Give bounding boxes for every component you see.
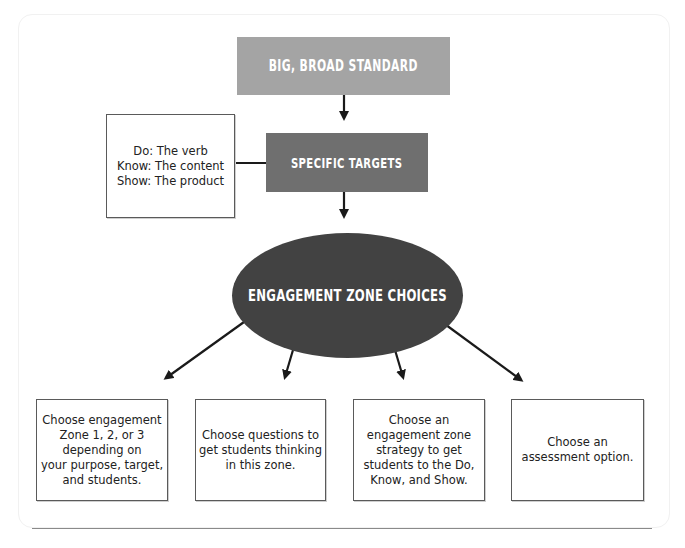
big-broad-standard-label: BIG, BROAD STANDARD (269, 57, 418, 75)
choice-4-line: assessment option. (522, 450, 634, 465)
choice-3-line: Choose an (364, 413, 475, 428)
engagement-zone-choices-label: ENGAGEMENT ZONE CHOICES (248, 287, 447, 305)
show-line: Show: The product (117, 174, 224, 189)
choice-box-strategy: Choose an engagement zone strategy to ge… (353, 399, 485, 501)
choice-3-line: Know, and Show. (364, 473, 475, 488)
do-know-show-box: Do: The verb Know: The content Show: The… (106, 114, 235, 218)
arrow-ellipse-to-choice-3 (395, 350, 403, 377)
choice-1-line: Choose engagement (41, 413, 163, 428)
choice-3-line: engagement zone (364, 428, 475, 443)
choice-1-line: and students. (41, 473, 163, 488)
arrow-ellipse-to-choice-4 (442, 322, 521, 380)
choice-2-line: Choose questions to (199, 428, 322, 443)
choice-3-line: students to the Do, (364, 458, 475, 473)
specific-targets-box: SPECIFIC TARGETS (266, 133, 428, 192)
bottom-divider (32, 528, 652, 529)
choice-2-line: in this zone. (199, 458, 322, 473)
arrow-ellipse-to-choice-1 (166, 322, 244, 378)
specific-targets-label: SPECIFIC TARGETS (291, 155, 402, 171)
choice-3-line: strategy to get (364, 443, 475, 458)
do-line: Do: The verb (117, 144, 224, 159)
arrow-ellipse-to-choice-2 (285, 350, 293, 377)
choice-1-line: Zone 1, 2, or 3 (41, 428, 163, 443)
choice-box-questions: Choose questions to get students thinkin… (195, 399, 326, 501)
diagram-canvas: BIG, BROAD STANDARD Do: The verb Know: T… (0, 0, 685, 548)
choice-box-zone: Choose engagement Zone 1, 2, or 3 depend… (36, 399, 168, 501)
choice-1-line: your purpose, target, (41, 458, 163, 473)
engagement-zone-choices-ellipse: ENGAGEMENT ZONE CHOICES (232, 233, 463, 358)
know-line: Know: The content (117, 159, 224, 174)
choice-4-line: Choose an (522, 435, 634, 450)
choice-1-line: depending on (41, 443, 163, 458)
big-broad-standard-box: BIG, BROAD STANDARD (237, 37, 450, 95)
choice-box-assessment: Choose an assessment option. (511, 399, 644, 501)
choice-2-line: get students thinking (199, 443, 322, 458)
